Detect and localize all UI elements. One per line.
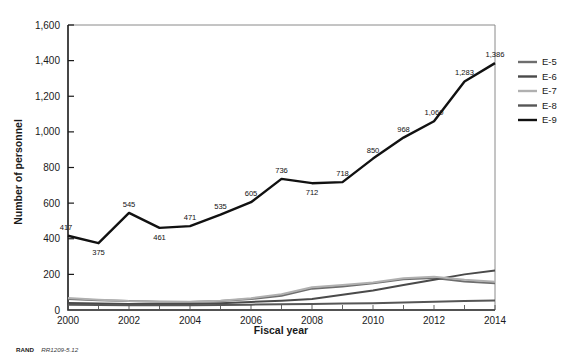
data-label: 535 xyxy=(214,202,227,211)
legend-label: E-5 xyxy=(542,56,557,67)
x-tick-label: 2004 xyxy=(179,315,202,326)
x-tick-label: 2000 xyxy=(57,315,80,326)
y-tick-label: 1,200 xyxy=(35,91,60,102)
y-tick-label: 1,600 xyxy=(35,20,60,31)
legend-label: E-7 xyxy=(542,85,557,96)
data-label: 1,283 xyxy=(455,68,474,77)
legend-label: E-6 xyxy=(542,71,557,82)
y-tick-label: 600 xyxy=(43,198,60,209)
y-tick-label: 1,000 xyxy=(35,126,60,137)
y-tick-label: 400 xyxy=(43,233,60,244)
data-label: 736 xyxy=(275,166,288,175)
data-label: 545 xyxy=(123,200,136,209)
data-label: 1,386 xyxy=(485,50,504,59)
y-tick-label: 800 xyxy=(43,162,60,173)
data-label: 718 xyxy=(336,169,349,178)
data-label: 375 xyxy=(92,248,105,257)
data-label: 471 xyxy=(184,213,197,222)
footer-id-label: RR1209-5.12 xyxy=(41,346,78,353)
legend-label: E-9 xyxy=(542,114,557,125)
x-axis-title: Fiscal year xyxy=(254,324,308,336)
footer-brand-label: RAND xyxy=(16,346,34,353)
data-label: 968 xyxy=(397,125,410,134)
y-tick-label: 200 xyxy=(43,269,60,280)
x-tick-label: 2012 xyxy=(423,315,446,326)
data-label: 712 xyxy=(306,188,319,197)
x-tick-label: 2010 xyxy=(362,315,385,326)
y-tick-label: 1,400 xyxy=(35,55,60,66)
data-label: 850 xyxy=(367,146,380,155)
legend-label: E-8 xyxy=(542,100,557,111)
data-label: 605 xyxy=(245,189,258,198)
x-tick-label: 2002 xyxy=(118,315,141,326)
line-chart-svg: 02004006008001,0001,2001,4001,600 200020… xyxy=(0,0,578,358)
data-label: 417 xyxy=(60,223,73,232)
data-label: 1,060 xyxy=(424,108,443,117)
y-tick-label: 0 xyxy=(54,305,60,316)
x-tick-label: 2014 xyxy=(484,315,507,326)
y-axis-title: Number of personnel xyxy=(12,119,24,225)
chart-figure: 02004006008001,0001,2001,4001,600 200020… xyxy=(0,0,578,358)
data-label: 461 xyxy=(153,233,166,242)
